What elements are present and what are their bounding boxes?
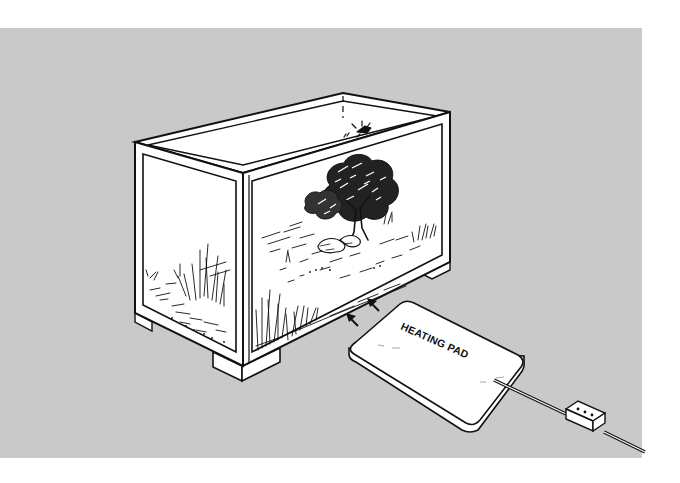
illustration: HEATING PAD xyxy=(0,0,680,483)
